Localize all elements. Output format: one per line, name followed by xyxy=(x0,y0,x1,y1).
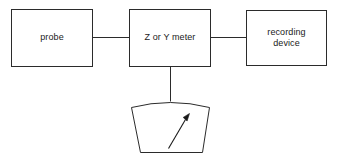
diagram-canvas xyxy=(0,0,338,165)
probe-box xyxy=(12,10,93,67)
meter-box xyxy=(130,10,211,67)
recording-device-box xyxy=(247,11,327,66)
block-diagram: probe Z or Y meter recording device xyxy=(0,0,338,165)
